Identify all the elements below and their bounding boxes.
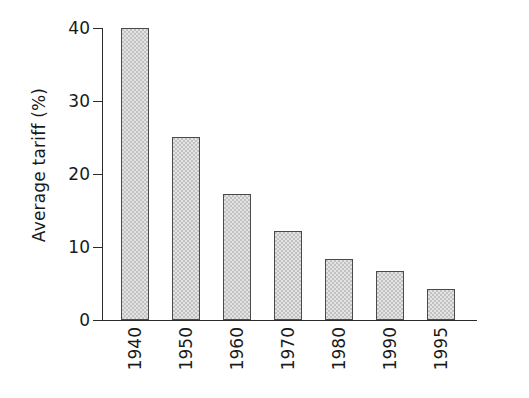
- bar-1960: [223, 194, 251, 320]
- x-tick-cell-1950: 1950: [171, 321, 201, 398]
- x-tick-label-1970: 1970: [280, 327, 297, 370]
- y-tick-mark-40: [93, 28, 102, 29]
- bar-1970: [274, 231, 302, 320]
- y-axis-tick-labels: 40 30 20 10 0: [56, 0, 90, 398]
- y-tick-label-30: 30: [68, 93, 90, 110]
- x-tick-cell-1960: 1960: [222, 321, 252, 398]
- x-tick-label-1940: 1940: [127, 327, 144, 370]
- x-tick-label-1950: 1950: [178, 327, 195, 370]
- y-tick-label-10: 10: [68, 239, 90, 256]
- x-tick-cell-1940: 1940: [120, 321, 150, 398]
- y-tick-label-40: 40: [68, 20, 90, 37]
- x-tick-cell-1980: 1980: [324, 321, 354, 398]
- x-tick-cell-1995: 1995: [426, 321, 456, 398]
- bar-1950: [172, 137, 200, 320]
- plot-area: [102, 28, 477, 320]
- y-axis-title: Average tariff (%): [22, 0, 56, 330]
- y-tick-mark-10: [93, 247, 102, 248]
- y-tick-mark-30: [93, 101, 102, 102]
- y-tick-label-20: 20: [68, 166, 90, 183]
- x-tick-label-1995: 1995: [433, 327, 450, 370]
- bar-1980: [325, 259, 353, 320]
- x-tick-cell-1970: 1970: [273, 321, 303, 398]
- y-tick-mark-20: [93, 174, 102, 175]
- x-tick-label-1960: 1960: [229, 327, 246, 370]
- y-tick-label-0: 0: [79, 312, 90, 329]
- y-tick-mark-0: [93, 320, 102, 321]
- bar-chart-figure: Average tariff (%) 40 30 20 10 0 1940 19…: [0, 0, 529, 398]
- bar-1990: [376, 271, 404, 320]
- x-tick-label-1990: 1990: [382, 327, 399, 370]
- x-tick-cell-1990: 1990: [375, 321, 405, 398]
- x-axis-tick-labels: 1940 1950 1960 1970 1980 1990 1995: [102, 321, 477, 398]
- bar-1995: [427, 289, 455, 320]
- x-tick-label-1980: 1980: [331, 327, 348, 370]
- bar-1940: [121, 28, 149, 320]
